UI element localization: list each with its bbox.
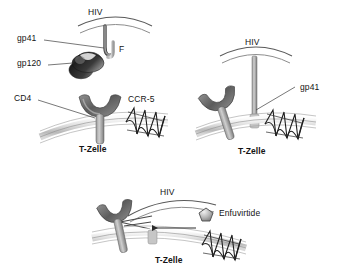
- figure-canvas: HIV gp41 gp120 F CD4 CCR-5 T-Zelle HIV g…: [0, 0, 338, 276]
- t-zelle-label-panel2: T-Zelle: [238, 147, 266, 156]
- gp120-label-panel1: gp120: [17, 59, 41, 68]
- cd4-receptor-panel3: [96, 198, 142, 256]
- gp41-label-panel2: gp41: [300, 83, 319, 92]
- ccr5-label-panel1: CCR-5: [128, 95, 154, 104]
- fusion-peptide-label-panel1: F: [119, 45, 124, 54]
- hiv-label-panel2: HIV: [245, 38, 259, 47]
- t-zelle-label-panel3: T-Zelle: [155, 256, 183, 265]
- cd4-label-panel1: CD4: [14, 94, 31, 103]
- ccr5-coil-panel2: [265, 110, 304, 139]
- panel-attachment-graphics: [38, 17, 168, 144]
- enfuvirtide-molecule-icon: [199, 208, 213, 221]
- hiv-label-panel3: HIV: [160, 188, 174, 197]
- panel-fusion-graphics: [196, 47, 316, 145]
- cd4-receptor-panel2: [198, 85, 250, 146]
- gp41-label-panel1: gp41: [17, 34, 36, 43]
- gp41-stem-panel1: [105, 26, 112, 55]
- hiv-envelope-panel1: [78, 17, 152, 33]
- hiv-entry-diagram: [0, 0, 338, 276]
- gp41-insertion-site-panel3: [148, 230, 157, 244]
- hiv-label-panel1: HIV: [88, 8, 102, 17]
- leader-lines-panel2: [256, 87, 295, 110]
- gp120-knob-panel1: [69, 52, 104, 79]
- t-zelle-label-panel1: T-Zelle: [79, 145, 107, 154]
- enfuvirtide-label-panel3: Enfuvirtide: [219, 209, 260, 218]
